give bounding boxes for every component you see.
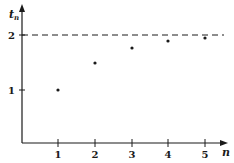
data-point-n5 — [203, 36, 206, 39]
y-axis-arrow-icon — [19, 4, 25, 12]
data-point-n3 — [130, 46, 133, 49]
x-axis-label: n — [222, 146, 230, 159]
y-axis-label: tn — [9, 8, 19, 22]
y-tick-label-1: 1 — [8, 85, 15, 96]
y-tick-label-2: 2 — [8, 30, 15, 41]
x-ticks: 1 2 3 4 5 — [55, 139, 209, 160]
data-point-n2 — [93, 61, 96, 64]
sequence-chart: 2 1 1 2 3 4 5 tn n — [0, 0, 234, 163]
x-tick-label-1: 1 — [55, 149, 62, 160]
x-tick-label-3: 3 — [129, 149, 136, 160]
data-point-n4 — [166, 39, 169, 42]
x-tick-label-2: 2 — [92, 149, 99, 160]
x-tick-label-4: 4 — [165, 149, 172, 160]
data-point-n1 — [56, 88, 59, 91]
x-tick-label-5: 5 — [202, 149, 209, 160]
data-points — [56, 36, 206, 91]
